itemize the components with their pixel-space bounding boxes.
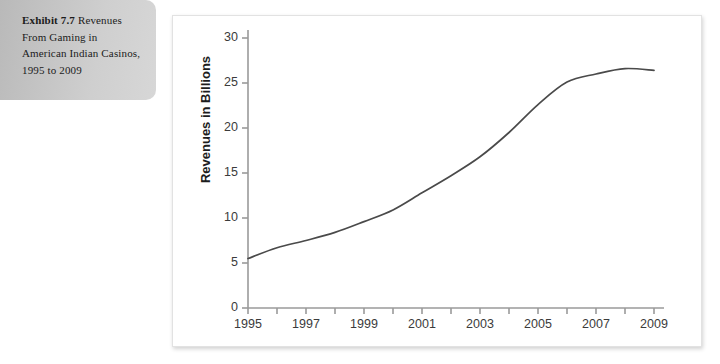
exhibit-caption-box: Exhibit 7.7 Revenues From Gaming in Amer… bbox=[0, 0, 156, 100]
y-axis-tick-label: 15 bbox=[208, 165, 238, 179]
y-axis-tick-label: 0 bbox=[208, 300, 238, 314]
y-axis-tick-label: 5 bbox=[208, 255, 238, 269]
x-axis-tick-label: 2003 bbox=[456, 317, 504, 331]
exhibit-caption-lead: Exhibit 7.7 bbox=[22, 14, 75, 26]
x-axis-tick-label: 2001 bbox=[398, 317, 446, 331]
x-axis-tick-label: 2007 bbox=[572, 317, 620, 331]
y-axis-tick-label: 30 bbox=[208, 30, 238, 44]
figure-root: Exhibit 7.7 Revenues From Gaming in Amer… bbox=[0, 0, 720, 364]
y-axis-tick-label: 20 bbox=[208, 120, 238, 134]
x-axis-tick-label: 1997 bbox=[282, 317, 330, 331]
chart-panel: Revenues in Billions 0510152025301995199… bbox=[172, 15, 702, 347]
x-axis-tick-label: 1995 bbox=[224, 317, 272, 331]
exhibit-caption-text: Exhibit 7.7 Revenues From Gaming in Amer… bbox=[22, 12, 144, 78]
x-axis-tick-label: 1999 bbox=[340, 317, 388, 331]
plot-area: Revenues in Billions 0510152025301995199… bbox=[173, 16, 703, 348]
x-axis-tick-label: 2009 bbox=[630, 317, 678, 331]
y-axis-tick-label: 10 bbox=[208, 210, 238, 224]
y-axis-tick-label: 25 bbox=[208, 75, 238, 89]
line-chart-svg bbox=[173, 16, 703, 348]
x-axis-tick-label: 2005 bbox=[514, 317, 562, 331]
